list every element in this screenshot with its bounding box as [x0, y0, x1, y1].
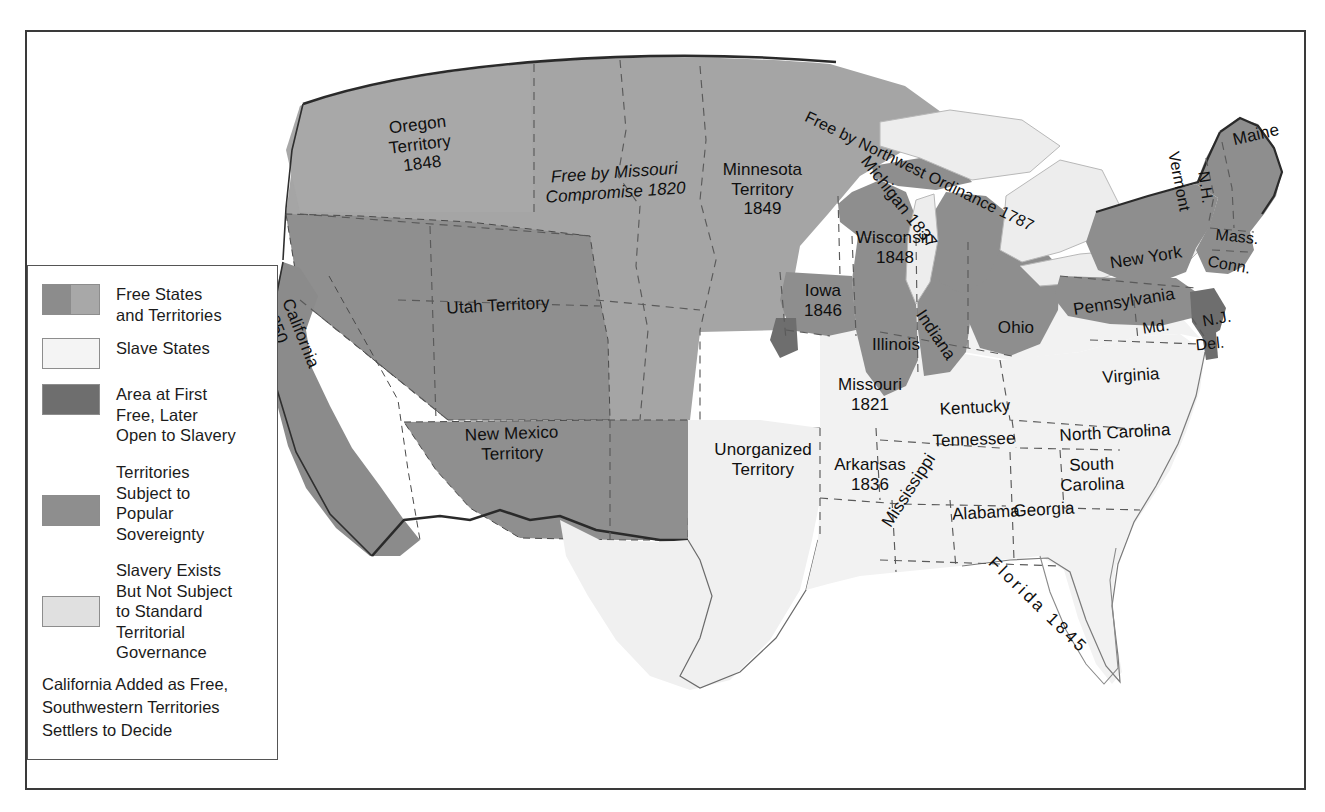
legend-label-later-open-to-slavery: Area at First Free, Later Open to Slaver…: [116, 384, 236, 446]
label-arkansas: Arkansas 1836: [818, 455, 922, 494]
legend-swatch-slave-states: [42, 338, 100, 369]
label-minnesota-territory: Minnesota Territory 1849: [705, 160, 820, 219]
legend-swatch-not-standard-governance: [42, 596, 100, 627]
map-legend: Free States and Territories Slave States…: [27, 265, 278, 760]
legend-item-popular-sovereignty[interactable]: Territories Subject to Popular Sovereign…: [42, 462, 270, 544]
legend-item-later-open-to-slavery[interactable]: Area at First Free, Later Open to Slaver…: [42, 384, 270, 446]
legend-note: California Added as Free, Southwestern T…: [42, 673, 272, 742]
legend-swatch-later-open-to-slavery: [42, 384, 100, 415]
label-missouri: Missouri 1821: [820, 375, 920, 414]
label-illinois: Illinois: [856, 335, 936, 355]
legend-label-slave-states: Slave States: [116, 338, 210, 369]
legend-label-not-standard-governance: Slavery Exists But Not Subject to Standa…: [116, 560, 232, 663]
legend-item-slave-states[interactable]: Slave States: [42, 338, 270, 369]
label-wisconsin: Wisconsin 1848: [840, 228, 950, 267]
legend-label-popular-sovereignty: Territories Subject to Popular Sovereign…: [116, 462, 204, 544]
label-iowa: Iowa 1846: [790, 281, 856, 320]
legend-item-free-states-and-territories[interactable]: Free States and Territories: [42, 284, 270, 325]
legend-swatch-free-states: [42, 284, 100, 315]
legend-swatch-popular-sovereignty: [42, 495, 100, 526]
label-unorganized-territory: Unorganized Territory: [707, 440, 819, 479]
label-south-carolina: South Carolina: [1039, 453, 1144, 496]
label-new-mexico-territory: New Mexico Territory: [439, 421, 584, 465]
map-screenshot: Free States and Territories Slave States…: [0, 0, 1325, 812]
label-ohio: Ohio: [988, 318, 1044, 338]
legend-label-free-states: Free States and Territories: [116, 284, 222, 325]
legend-item-not-standard-governance[interactable]: Slavery Exists But Not Subject to Standa…: [42, 560, 270, 663]
